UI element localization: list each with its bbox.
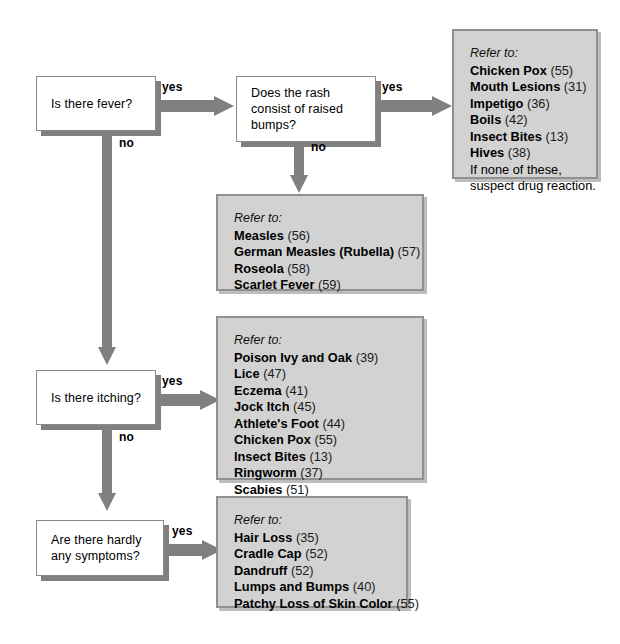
list-item[interactable]: Poison Ivy and Oak (39) (234, 350, 408, 367)
referral-name: Scarlet Fever (234, 277, 314, 292)
list-item[interactable]: Hives (38) (470, 145, 582, 162)
referral-page: (59) (318, 277, 341, 292)
referral-name: Roseola (234, 261, 284, 276)
list-item[interactable]: Lice (47) (234, 366, 408, 383)
decision-label-raised-bumps: Does the rash consist of raised bumps? (251, 85, 367, 133)
referral-list: Measles (56) German Measles (Rubella) (5… (234, 228, 408, 294)
referral-name: Impetigo (470, 96, 523, 111)
list-item[interactable]: Insect Bites (13) (234, 449, 408, 466)
referral-name: Lice (234, 366, 260, 381)
list-item[interactable]: Cradle Cap (52) (234, 546, 392, 563)
referral-name: German Measles (Rubella) (234, 244, 394, 259)
referral-page: (55) (314, 432, 337, 447)
list-item[interactable]: Ringworm (37) (234, 465, 408, 482)
referral-page: (52) (291, 563, 314, 578)
referral-page: (37) (300, 465, 323, 480)
referral-name: Eczema (234, 383, 282, 398)
arrow-fever-no (98, 131, 116, 365)
referral-heading: Refer to: (470, 45, 582, 62)
referral-box-fever-no-bumps: Refer to: Measles (56) German Measles (R… (216, 194, 424, 291)
referral-name: Boils (470, 112, 501, 127)
arrow-label-fever-yes: yes (162, 80, 183, 94)
list-item[interactable]: Jock Itch (45) (234, 399, 408, 416)
referral-page: (55) (550, 63, 573, 78)
decision-label-itching: Is there itching? (51, 390, 141, 406)
referral-name: Chicken Pox (234, 432, 311, 447)
referral-page: (38) (508, 145, 531, 160)
arrow-itching-yes (152, 390, 220, 410)
arrow-label-fever-no: no (119, 136, 134, 150)
arrow-label-bumps-no: no (311, 140, 326, 154)
list-item[interactable]: Chicken Pox (55) (470, 63, 582, 80)
referral-name: Jock Itch (234, 399, 289, 414)
referral-page: (55) (396, 596, 419, 611)
list-item[interactable]: Impetigo (36) (470, 96, 582, 113)
referral-page: (45) (293, 399, 316, 414)
referral-box-hardly-any-symptoms: Refer to: Hair Loss (35) Cradle Cap (52)… (216, 496, 408, 608)
list-item[interactable]: Mouth Lesions (31) (470, 79, 582, 96)
referral-list: Poison Ivy and Oak (39) Lice (47) Eczema… (234, 350, 408, 499)
referral-page: (31) (564, 79, 587, 94)
list-item[interactable]: Eczema (41) (234, 383, 408, 400)
referral-name: Poison Ivy and Oak (234, 350, 352, 365)
arrow-label-itching-yes: yes (162, 374, 183, 388)
list-item[interactable]: Patchy Loss of Skin Color (55) (234, 596, 392, 613)
arrow-label-bumps-yes: yes (382, 80, 403, 94)
arrow-label-itching-no: no (119, 430, 134, 444)
list-item[interactable]: Boils (42) (470, 112, 582, 129)
arrow-itching-no (98, 425, 116, 511)
list-item[interactable]: Roseola (58) (234, 261, 408, 278)
referral-name: Dandruff (234, 563, 287, 578)
referral-page: (13) (545, 129, 568, 144)
list-item[interactable]: Hair Loss (35) (234, 530, 392, 547)
referral-page: (13) (309, 449, 332, 464)
referral-page: (35) (296, 530, 319, 545)
list-item[interactable]: Scarlet Fever (59) (234, 277, 408, 294)
referral-list: Chicken Pox (55) Mouth Lesions (31) Impe… (470, 63, 582, 195)
list-item[interactable]: Chicken Pox (55) (234, 432, 408, 449)
referral-page: (47) (263, 366, 286, 381)
referral-name: Chicken Pox (470, 63, 547, 78)
referral-note-line-2: suspect drug reaction. (470, 178, 582, 195)
decision-label-fever: Is there fever? (51, 96, 132, 112)
referral-name: Insect Bites (234, 449, 306, 464)
decision-box-hardly-any-symptoms[interactable]: Are there hardly any symptoms? (36, 520, 164, 576)
referral-name: Patchy Loss of Skin Color (234, 596, 393, 611)
list-item[interactable]: Dandruff (52) (234, 563, 392, 580)
referral-name: Cradle Cap (234, 546, 302, 561)
referral-page: (57) (398, 244, 421, 259)
referral-name: Insect Bites (470, 129, 542, 144)
referral-list: Hair Loss (35) Cradle Cap (52) Dandruff … (234, 530, 392, 613)
arrow-bumps-yes (372, 96, 452, 116)
referral-name: Measles (234, 228, 284, 243)
referral-page: (36) (527, 96, 550, 111)
list-item[interactable]: German Measles (Rubella) (57) (234, 244, 408, 261)
referral-name: Mouth Lesions (470, 79, 560, 94)
referral-name: Ringworm (234, 465, 297, 480)
list-item[interactable]: Measles (56) (234, 228, 408, 245)
referral-name: Hives (470, 145, 504, 160)
referral-page: (40) (353, 579, 376, 594)
decision-box-itching[interactable]: Is there itching? (36, 370, 156, 425)
referral-name: Hair Loss (234, 530, 292, 545)
referral-page: (39) (356, 350, 379, 365)
list-item[interactable]: Athlete's Foot (44) (234, 416, 408, 433)
referral-heading: Refer to: (234, 332, 408, 349)
referral-page: (58) (287, 261, 310, 276)
decision-box-raised-bumps[interactable]: Does the rash consist of raised bumps? (236, 76, 376, 142)
list-item[interactable]: Insect Bites (13) (470, 129, 582, 146)
decision-box-fever[interactable]: Is there fever? (36, 76, 156, 131)
referral-note-text: If none of these, (470, 162, 562, 177)
referral-page: (41) (285, 383, 308, 398)
decision-label-hardly-any-symptoms: Are there hardly any symptoms? (51, 532, 155, 564)
referral-page: (52) (305, 546, 328, 561)
referral-page: (51) (286, 482, 309, 497)
referral-page: (44) (322, 416, 345, 431)
referral-heading: Refer to: (234, 512, 392, 529)
referral-note-line-1: If none of these, (470, 162, 582, 179)
referral-box-fever-and-bumps: Refer to: Chicken Pox (55) Mouth Lesions… (452, 29, 598, 179)
arrow-symptoms-yes (160, 540, 222, 560)
referral-page: (42) (505, 112, 528, 127)
list-item[interactable]: Lumps and Bumps (40) (234, 579, 392, 596)
arrow-fever-yes (152, 96, 234, 116)
